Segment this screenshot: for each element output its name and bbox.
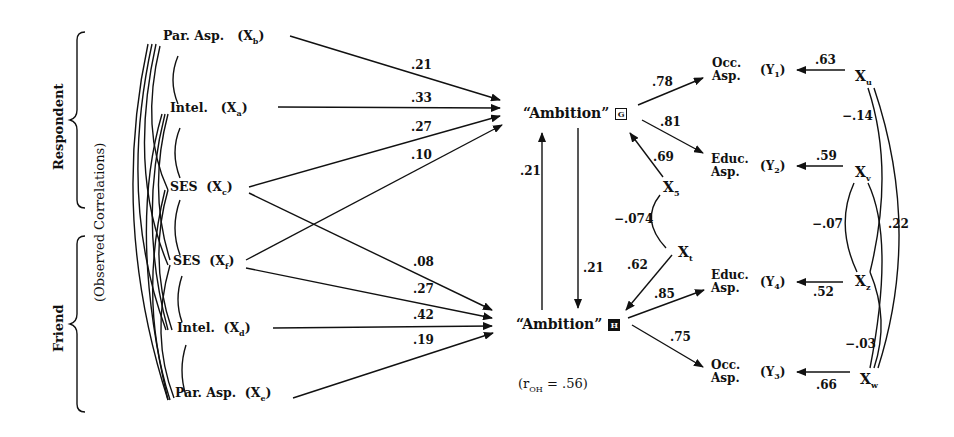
coef-xf-g: .10 — [411, 149, 432, 161]
coef-xb-g: .21 — [411, 59, 432, 71]
corr-u-z: .22 — [888, 218, 909, 230]
xt-node: Xt — [678, 245, 693, 262]
corr-v-z: −.07 — [812, 218, 843, 230]
indicator-y1-var: (Y1) — [760, 64, 786, 79]
exogenous-par-asp-friend: Par. Asp. (Xe) — [175, 387, 271, 402]
coef-x5-xt-corr: −.074 — [614, 213, 653, 225]
g-box-marker: G — [615, 108, 627, 120]
indicator-y1: Occ.Asp. — [712, 57, 741, 82]
respondent-group-label: Respondent — [52, 84, 65, 170]
ambition-h-node: “Ambition”H — [516, 317, 620, 331]
observed-correlations-label: (Observed Correlations) — [93, 143, 106, 302]
xv-node: Xv — [855, 165, 871, 182]
r-oh-annotation: (rOH = .56) — [518, 377, 588, 394]
coef-x5-g: .69 — [653, 151, 674, 163]
coef-g-to-h: .21 — [583, 262, 604, 274]
err-coef-y3: .66 — [816, 379, 837, 391]
xw-node: Xw — [860, 372, 878, 389]
indicator-y2-var: (Y2) — [760, 160, 786, 175]
indicator-y2: Educ.Asp. — [711, 153, 749, 178]
corr-u-v: −.14 — [842, 110, 873, 122]
coef-xd-h: .42 — [413, 309, 434, 321]
indicator-y3-var: (Y3) — [760, 366, 786, 381]
indicator-y4-var: (Y4) — [760, 276, 786, 291]
coef-xc-h: .08 — [413, 256, 434, 268]
exogenous-par-asp-respondent: Par. Asp. (Xb) — [163, 30, 264, 45]
corr-z-w: −.03 — [845, 338, 876, 350]
xu-node: Xu — [855, 69, 872, 86]
exogenous-ses-respondent: SES (Xc) — [170, 181, 233, 196]
h-box-marker: H — [608, 319, 620, 331]
respondent-brace — [70, 32, 85, 208]
coef-xf-h: .27 — [413, 283, 434, 295]
loading-y1: .78 — [652, 76, 673, 88]
coef-xt-h: .62 — [627, 259, 648, 271]
err-coef-y1: .63 — [815, 54, 836, 66]
err-coef-y4: .52 — [813, 286, 834, 298]
exogenous-intel-friend: Intel. (Xd) — [177, 322, 251, 337]
loading-y3: .75 — [670, 331, 691, 343]
x5-node: X5 — [663, 180, 679, 197]
coef-xe-h: .19 — [413, 334, 434, 346]
coef-xa-g: .33 — [411, 92, 432, 104]
ambition-g-node: “Ambition”G — [523, 106, 627, 120]
exogenous-intel-respondent: Intel. (Xa) — [170, 102, 248, 117]
loading-y2: .81 — [660, 116, 681, 128]
xz-node: Xz — [855, 274, 870, 291]
err-coef-y2: .59 — [816, 150, 837, 162]
coef-h-to-g: .21 — [520, 165, 541, 177]
indicator-y4: Educ.Asp. — [711, 269, 749, 294]
indicator-y3: Occ.Asp. — [711, 359, 740, 384]
path-diagram-lines — [0, 0, 954, 437]
friend-brace — [70, 236, 85, 412]
friend-group-label: Friend — [52, 304, 65, 352]
coef-xc-g: .27 — [411, 121, 432, 133]
loading-y4: .85 — [654, 288, 675, 300]
exogenous-ses-friend: SES (Xf) — [173, 255, 234, 270]
